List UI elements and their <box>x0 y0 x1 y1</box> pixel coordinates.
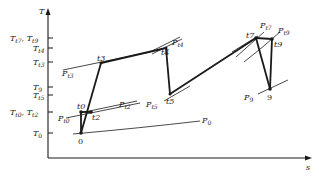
path-t3-t4 <box>101 48 166 63</box>
y-ticks <box>48 38 53 133</box>
label-t3: t3 <box>97 54 105 63</box>
tick-label-t0: T0 <box>33 129 42 139</box>
label-t9: t9 <box>274 40 282 49</box>
label-Pt7: Pt7 <box>259 21 272 31</box>
path-0-t3 <box>81 63 101 133</box>
label-Pt2: Pt2 <box>118 100 131 110</box>
path-t9-9 <box>270 39 272 89</box>
tick-label-tt3: Tt3 <box>33 58 45 68</box>
label-9: 9 <box>267 93 272 102</box>
path-t7-t9 <box>256 38 272 39</box>
tick-label-tt4: Tt4 <box>33 44 45 54</box>
label-Pt0: Pt0 <box>57 114 70 124</box>
label-t0: t0 <box>77 102 85 111</box>
tick-label-tt0-tt2: Tt0, Tt2 <box>10 108 38 118</box>
label-P0: P0 <box>201 116 211 126</box>
ts-diagram: T s Tt7, Tt9 Tt4 Tt3 T9 Tt5 Tt0, Tt2 <box>0 0 319 178</box>
label-t2: t2 <box>92 113 100 122</box>
label-t5: t5 <box>166 97 174 106</box>
label-P9: P9 <box>243 93 253 103</box>
label-Pt9: Pt9 <box>277 26 290 36</box>
state-points <box>79 36 274 135</box>
tick-label-tt7-tt9: Tt7, Tt9 <box>10 34 38 44</box>
x-axis-label: s <box>306 163 310 172</box>
x-axis-arrow-icon <box>305 156 312 161</box>
label-Pt5: Pt5 <box>145 100 158 110</box>
isobar-p0 <box>73 121 200 134</box>
label-0: 0 <box>78 137 83 146</box>
label-t7: t7 <box>246 31 255 40</box>
label-Pt3: Pt3 <box>61 69 74 79</box>
isobar-p9 <box>258 80 288 94</box>
y-axis-arrow-icon <box>46 8 51 15</box>
path-t7-9 <box>256 38 270 89</box>
y-axis-label: T <box>39 7 45 16</box>
label-t4: t4 <box>161 48 169 57</box>
process-lines <box>81 38 272 133</box>
y-tick-labels: Tt7, Tt9 Tt4 Tt3 T9 Tt5 Tt0, Tt2 T0 <box>10 34 45 139</box>
